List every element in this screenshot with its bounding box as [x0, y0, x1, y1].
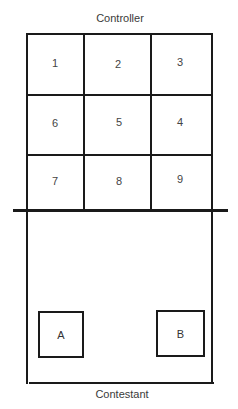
box-a-label: A [40, 329, 82, 341]
grid-cell-6: 6 [35, 117, 75, 129]
grid-cell-8: 8 [99, 175, 139, 187]
grid-cell-7: 7 [35, 175, 75, 187]
grid-row-line-1 [26, 94, 213, 96]
contestant-label: Contestant [72, 388, 172, 400]
frame-top [26, 33, 213, 35]
frame-bottom [29, 382, 214, 384]
box-b-label: B [158, 328, 203, 340]
grid-cell-2: 2 [98, 58, 138, 70]
grid-cell-9: 9 [160, 173, 200, 185]
controller-label: Controller [70, 12, 170, 24]
grid-col-line-1 [83, 33, 85, 211]
box-a: A [38, 311, 84, 358]
grid-cell-3: 3 [160, 56, 200, 68]
grid-row-line-2 [26, 154, 213, 156]
grid-cell-4: 4 [160, 116, 200, 128]
frame-right [211, 33, 213, 383]
grid-cell-5: 5 [99, 116, 139, 128]
diagram: Controller 1 2 3 6 5 4 7 8 9 A B Contest… [0, 0, 238, 409]
grid-col-line-2 [150, 33, 152, 211]
box-b: B [156, 310, 205, 357]
grid-cell-1: 1 [35, 57, 75, 69]
divider-line [13, 209, 228, 212]
